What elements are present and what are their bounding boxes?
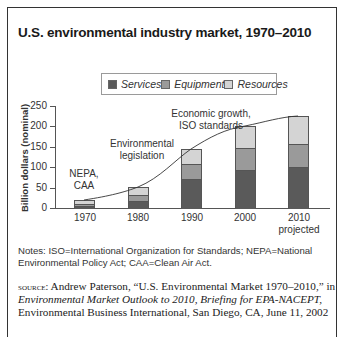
annotation-legislation: Environmental legislation: [104, 138, 180, 162]
annotation-economic-growth: Economic growth, ISO standards: [166, 108, 256, 132]
source-text-2: Environmental Business International, Sa…: [18, 306, 328, 318]
source-text: Andrew Paterson, “U.S. Environmental Mar…: [48, 280, 335, 292]
x-label-1980: 1980: [113, 212, 163, 224]
annotation-nepa: NEPA, CAA: [62, 168, 106, 192]
x-label-1990: 1990: [167, 212, 217, 224]
chart-source: source: Andrew Paterson, “U.S. Environme…: [18, 280, 336, 319]
x-label-2000: 2000: [220, 212, 270, 224]
chart-notes: Notes: ISO=International Organization fo…: [18, 245, 328, 269]
source-label: source:: [18, 281, 48, 292]
x-label-2010: 2010 projected: [274, 212, 324, 236]
x-label-1970: 1970: [60, 212, 110, 224]
source-publication: Environmental Market Outlook to 2010, Br…: [18, 293, 322, 305]
